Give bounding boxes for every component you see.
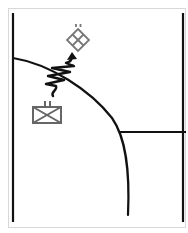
tactical-diagram	[0, 0, 188, 233]
frame-border	[9, 9, 186, 228]
diagram-canvas	[0, 0, 188, 233]
